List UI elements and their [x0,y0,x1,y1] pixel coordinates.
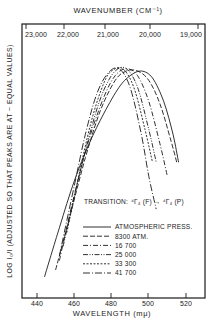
legend-label: 41 700 [115,269,137,276]
legend-label: ATMOSPHERIC PRESS. [115,223,193,230]
legend-label: 8300 ATM. [115,233,148,240]
top-axis-ticks [26,24,198,29]
svg-text:500: 500 [142,300,154,307]
y-axis-title: LOG I₀/I (ADJUSTED SO THAT PEAKS ARE AT … [6,44,14,277]
legend-label: 33 300 [115,260,137,267]
bottom-axis-ticks [37,293,186,298]
svg-text:520: 520 [180,300,192,307]
curve-16-700 [59,69,167,261]
legend: ATMOSPHERIC PRESS.8300 ATM.16 70025 0003… [83,223,193,276]
plot-frame [22,24,205,298]
svg-text:19,000: 19,000 [180,31,202,38]
svg-text:23,000: 23,000 [25,31,47,38]
curves [45,67,179,277]
legend-label: 16 700 [115,242,137,249]
transition-formula: ⁴Γ₄ (F) → ⁴Γ₄ (P) [131,198,184,206]
curve-25-000 [63,67,156,246]
top-axis-tick-labels: 23,000 22,000 21,000 20,000 19,000 [25,31,202,38]
svg-text:460: 460 [68,300,80,307]
chart: WAVENUMBER (CM⁻¹) 23,000 22,000 21,000 2… [0,0,213,323]
svg-text:440: 440 [31,300,43,307]
bottom-axis-tick-labels: 440 460 480 500 520 [31,300,192,307]
top-axis-title: WAVENUMBER (CM⁻¹) [73,6,162,15]
svg-text:480: 480 [105,300,117,307]
bottom-axis-title: WAVELENGTH (mμ) [73,309,151,318]
curve-atmospheric-press [45,71,179,277]
svg-text:21,000: 21,000 [97,31,119,38]
svg-text:22,000: 22,000 [57,31,79,38]
transition-label: TRANSITION: [84,198,128,205]
curve-8300-atm [56,70,177,270]
legend-label: 25 000 [115,251,137,258]
curve-33-300 [67,68,153,233]
svg-text:20,000: 20,000 [139,31,161,38]
